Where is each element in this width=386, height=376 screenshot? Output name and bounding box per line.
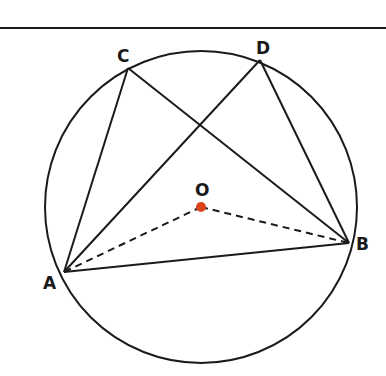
label-C: C — [117, 46, 129, 66]
label-O: O — [195, 180, 209, 200]
label-A: A — [43, 273, 57, 293]
label-B: B — [356, 234, 369, 254]
segment-DB — [260, 60, 349, 243]
segment-AC — [64, 68, 128, 272]
circle-diagram: C D O A B — [0, 0, 386, 376]
segment-AD — [64, 60, 260, 272]
segment-AB — [64, 243, 349, 272]
label-D: D — [256, 38, 270, 58]
segment-OA-dashed — [64, 207, 201, 272]
center-dot — [196, 202, 206, 212]
